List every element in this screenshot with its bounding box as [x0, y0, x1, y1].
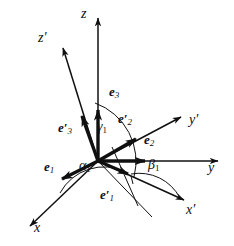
axis-label-x: x — [34, 221, 40, 235]
diagram-canvas — [0, 0, 234, 246]
unit-vector-label-e2: e2 — [144, 133, 154, 148]
coordinate-frame-diagram: z y x z′ y′ x′ e1 e2 e3 e′1 e′2 e′3 α1 β… — [0, 0, 234, 246]
angle-label-beta1: β1 — [148, 158, 159, 173]
axis-label-z-prime: z′ — [38, 31, 47, 45]
unit-vector-e3-prime-arrow — [82, 116, 98, 161]
angle-label-alpha1: α1 — [79, 159, 91, 174]
unit-vector-label-e3-prime: e′3 — [58, 121, 72, 136]
angle-label-gamma1: γ1 — [97, 120, 107, 135]
unit-vector-label-e3: e3 — [109, 85, 119, 100]
axis-label-z: z — [81, 7, 86, 21]
axis-label-y: y — [208, 161, 214, 175]
axis-label-y-prime: y′ — [189, 113, 198, 127]
axis-label-x-prime: x′ — [186, 203, 195, 217]
unit-vector-label-e2-prime: e′2 — [118, 112, 132, 127]
unit-vector-label-e1-prime: e′1 — [100, 188, 114, 203]
unit-vector-label-e1: e1 — [44, 160, 54, 175]
